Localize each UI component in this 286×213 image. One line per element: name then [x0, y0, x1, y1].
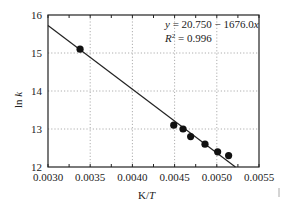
data-points — [76, 46, 232, 160]
x-tick-label: 0.0050 — [202, 171, 233, 183]
y-axis-label: ln k — [12, 91, 24, 108]
y-tick-label: 14 — [31, 85, 43, 97]
data-point — [225, 152, 232, 159]
x-tick-label: 0.0055 — [244, 171, 275, 183]
fit-equation: y = 20.750 − 1676.0x — [164, 18, 259, 30]
gridlines — [48, 15, 259, 167]
data-point — [187, 133, 194, 140]
x-tick-label: 0.0045 — [159, 171, 190, 183]
data-point — [170, 122, 177, 129]
x-axis-label: K/T — [138, 189, 156, 201]
y-tick-labels: 1213141516 — [31, 9, 43, 173]
y-tick-label: 15 — [31, 47, 43, 59]
y-tick-label: 16 — [31, 9, 43, 21]
y-tick-label: 12 — [31, 161, 42, 173]
data-point — [201, 141, 208, 148]
x-tick-label: 0.0040 — [117, 171, 148, 183]
data-point — [214, 148, 221, 155]
data-point — [76, 46, 83, 53]
x-tick-label: 0.0035 — [75, 171, 106, 183]
r-squared: R2 = 0.996 — [164, 32, 212, 44]
x-tick-labels: 0.00300.00350.00400.00450.00500.0055 — [33, 171, 275, 183]
data-point — [179, 125, 186, 132]
chart: 0.00300.00350.00400.00450.00500.0055 121… — [0, 0, 286, 213]
y-tick-label: 13 — [31, 123, 43, 135]
